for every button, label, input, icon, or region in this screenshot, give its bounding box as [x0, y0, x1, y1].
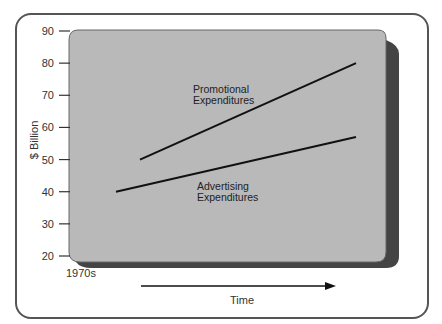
- x-axis-label: Time: [230, 294, 254, 306]
- promotional-label-2: Expenditures: [193, 94, 254, 106]
- y-tick-label: 80: [42, 57, 54, 69]
- plot-panel: [69, 30, 386, 262]
- y-tick-label: 90: [42, 25, 54, 37]
- y-axis-label: $ Billion: [28, 121, 40, 160]
- y-axis: 2030405060708090: [42, 25, 70, 262]
- chart: 2030405060708090 $ Billion 1970s Promoti…: [0, 0, 442, 324]
- time-arrow-head-icon: [325, 282, 336, 290]
- x-start-label: 1970s: [66, 267, 96, 279]
- advertising-label-2: Expenditures: [197, 191, 258, 203]
- y-tick-label: 40: [42, 186, 54, 198]
- y-tick-label: 50: [42, 154, 54, 166]
- y-tick-label: 30: [42, 218, 54, 230]
- y-tick-label: 60: [42, 121, 54, 133]
- y-tick-label: 70: [42, 89, 54, 101]
- y-tick-label: 20: [42, 250, 54, 262]
